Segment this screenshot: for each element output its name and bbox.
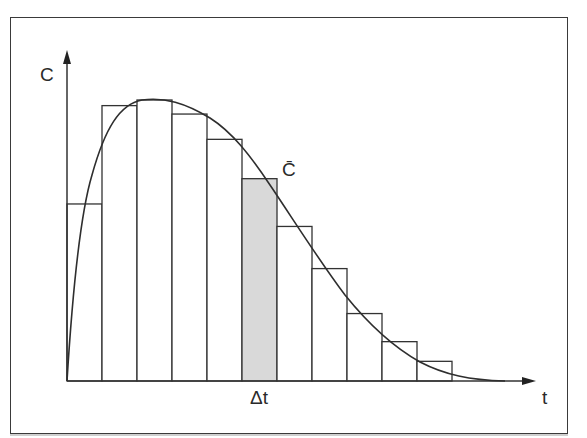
curve-label: C̄ bbox=[282, 160, 296, 179]
bar bbox=[382, 342, 417, 381]
highlighted-bar bbox=[242, 179, 277, 381]
bars-group bbox=[67, 100, 452, 381]
plot-area bbox=[0, 0, 587, 438]
bar bbox=[312, 269, 347, 381]
bar bbox=[347, 314, 382, 381]
bar bbox=[277, 226, 312, 381]
interval-label: Δt bbox=[250, 388, 268, 407]
bar bbox=[207, 139, 242, 381]
bar bbox=[172, 114, 207, 381]
y-axis-label: C bbox=[40, 65, 54, 84]
diagram-figure: C t C̄ Δt bbox=[0, 0, 587, 438]
bar bbox=[137, 100, 172, 381]
x-axis-arrow-icon bbox=[522, 377, 536, 385]
bar bbox=[417, 361, 452, 381]
x-axis-label: t bbox=[542, 388, 547, 407]
bar bbox=[67, 204, 102, 381]
y-axis-arrow-icon bbox=[63, 50, 71, 64]
bar bbox=[102, 106, 137, 381]
